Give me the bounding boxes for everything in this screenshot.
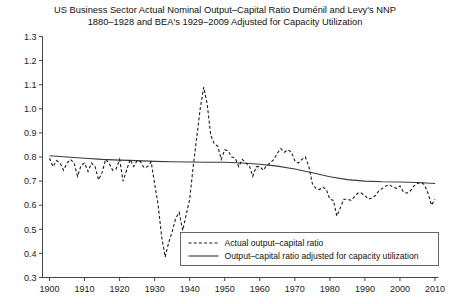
y-axis-ticks: 0.30.40.50.60.70.80.91.01.11.21.3 [24,32,43,283]
y-tick-label: 1.1 [24,80,37,90]
chart-figure: US Business Sector Actual Nominal Output… [0,0,450,304]
x-tick-label: 1980 [320,284,340,294]
x-tick-label: 2000 [390,284,410,294]
x-tick-label: 1940 [180,284,200,294]
chart-plot-area: 0.30.40.50.60.70.80.91.01.11.21.3 190019… [0,0,450,304]
chart-legend: Actual output–capital ratioOutput–capita… [181,233,439,266]
x-tick-label: 1970 [285,284,305,294]
y-tick-label: 1.0 [24,104,37,114]
x-tick-label: 1900 [39,284,59,294]
x-tick-label: 1990 [355,284,375,294]
y-tick-label: 1.3 [24,32,37,42]
series-line-actual [50,87,435,257]
x-axis-ticks: 1900191019201930194019501960197019801990… [39,278,445,295]
x-tick-label: 1960 [250,284,270,294]
y-tick-label: 0.7 [24,176,37,186]
x-tick-label: 1930 [145,284,165,294]
x-tick-label: 1950 [215,284,235,294]
x-tick-label: 2010 [425,284,445,294]
y-tick-label: 1.2 [24,56,37,66]
y-tick-label: 0.6 [24,200,37,210]
x-tick-label: 1910 [75,284,95,294]
legend-label: Actual output–capital ratio [225,238,324,248]
y-tick-label: 0.9 [24,128,37,138]
y-tick-label: 0.5 [24,225,37,235]
legend-label: Output–capital ratio adjusted for capaci… [225,251,419,261]
y-tick-label: 0.8 [24,152,37,162]
x-tick-label: 1920 [110,284,130,294]
y-tick-label: 0.4 [24,249,37,259]
y-tick-label: 0.3 [24,273,37,283]
